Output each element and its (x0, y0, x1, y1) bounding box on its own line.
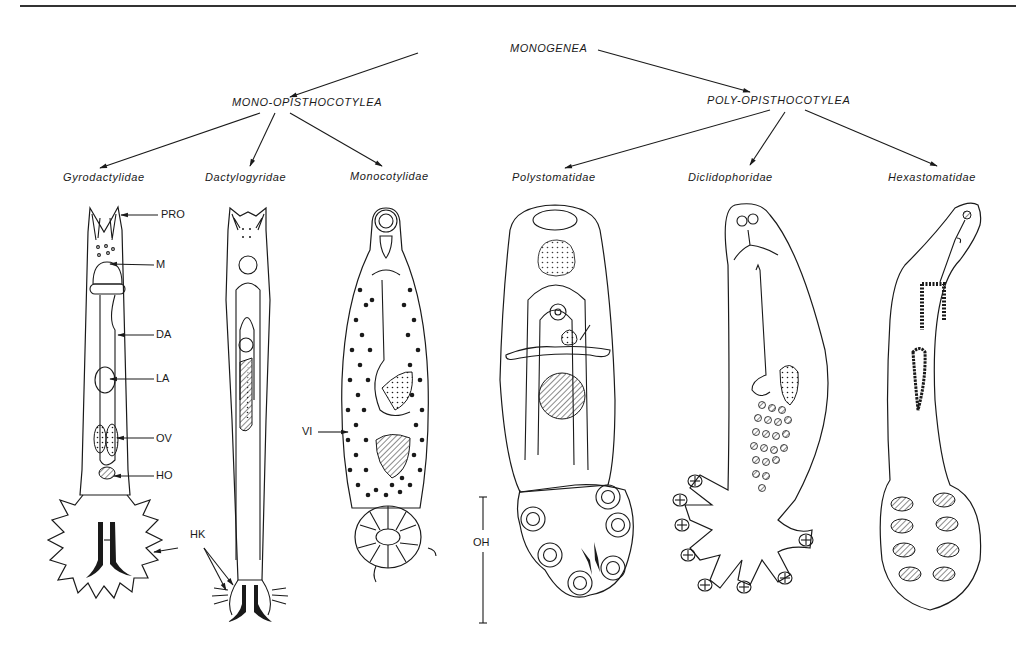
monogenea-classification-diagram (0, 0, 1022, 658)
scale-bar-oh (479, 497, 487, 623)
specimen-polystomatidae (500, 205, 633, 597)
tree-arrows (100, 50, 937, 168)
specimen-hexastomatidae (880, 203, 980, 610)
clamps-diclidophoridae (673, 475, 813, 593)
specimen-dactylogyridae (204, 208, 288, 622)
testes-dots (751, 402, 792, 492)
specimen-diclidophoridae (673, 204, 828, 593)
suckers-polystomatidae (521, 485, 630, 595)
specimen-gyrodactylidae (48, 207, 178, 598)
clamps-hexastomatidae (891, 493, 959, 581)
specimen-monocotylidae (318, 208, 436, 582)
